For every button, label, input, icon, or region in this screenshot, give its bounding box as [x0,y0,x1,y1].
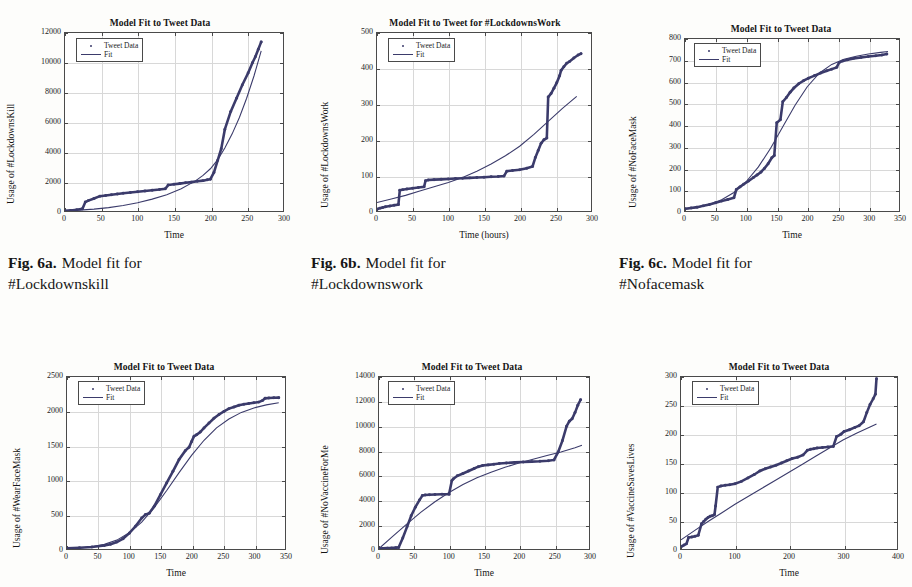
tweet-data-point [843,430,846,433]
fit-line-icon [696,397,718,398]
x-axis-title: Time [680,568,898,578]
tweet-data-point [789,91,792,94]
tweet-data-point [212,171,215,174]
tweet-data-point [441,493,444,496]
tweet-data-point [417,186,420,189]
fit-curve [65,51,261,211]
tweet-data-point [848,428,851,431]
tweet-data-point [694,535,697,538]
scatter-dot-icon [698,50,720,52]
tweet-data-point [406,525,409,528]
tweet-data-point [763,167,766,170]
plot-area: Tweet Data Fit 0200040006000800010000120… [64,32,284,212]
tweet-data-point [505,170,508,173]
y-tick-label: 500 [669,99,681,107]
tweet-data-point [110,193,113,196]
x-axis-title: Time [684,230,900,240]
legend-label-data: Tweet Data [104,384,140,393]
tweet-data-trail [685,54,887,209]
fit-curve [685,51,888,209]
chart-title: Model Fit to Tweet for #LockdownsWork [332,18,618,28]
tweet-data-point [190,440,193,443]
chart-legend: Tweet Data Fit [694,43,761,67]
tweet-data-point [195,433,198,436]
tweet-data-point [724,484,727,487]
tweet-data-point [571,417,574,420]
tweet-data-point [802,79,805,82]
x-tick-label: 150 [478,553,490,561]
tweet-data-point [802,454,805,457]
x-tick-label: 200 [205,215,217,223]
tweet-data-point [398,189,401,192]
tweet-data-point [555,81,558,84]
y-tick-label: 0 [369,208,373,216]
tweet-data-point [252,401,255,404]
tweet-data-point [728,483,731,486]
tweet-data-point [144,513,147,516]
tweet-data-point [685,542,688,545]
tweet-data-point [577,54,580,57]
tweet-data-point [277,396,280,399]
tweet-data-point [726,198,729,201]
x-tick-label: 200 [186,553,198,561]
tweet-data-point [212,417,215,420]
tweet-data-point [807,77,810,80]
tweet-data-point [716,486,719,489]
y-tick-label: 600 [669,78,681,86]
figure-cell-6f: Model Fit to Tweet Data Usage of #Vaccin… [608,352,912,587]
tweet-data-point [167,184,170,187]
tweet-data-point [874,54,877,57]
y-tick-label: 4000 [45,148,61,156]
tweet-data-point [272,396,275,399]
tweet-data-point [702,520,705,523]
tweet-data-point [267,396,270,399]
chart-legend: Tweet Data Fit [388,381,455,405]
tweet-data-point [421,494,424,497]
tweet-data-point [397,546,400,549]
tweet-data-point [525,167,528,170]
tweet-data-point [867,55,870,58]
chart-title: Model Fit to Tweet Data [642,24,912,34]
x-axis-title: Time [66,568,286,578]
legend-label-fit: Fit [718,393,728,402]
tweet-data-point [835,66,838,69]
y-tick-label: 12000 [41,28,61,36]
legend-label-fit: Fit [414,393,424,402]
x-tick-label: 300 [584,553,596,561]
caption-text: Model fit for [366,254,446,271]
plot-area: Tweet Data Fit 0200040006000800010000120… [378,376,590,550]
plot-area: Tweet Data Fit 0100200300400500050100150… [376,32,592,212]
tweet-data-point [414,506,417,509]
y-tick-label: 200 [665,430,677,438]
y-tick-label: 4000 [359,496,375,504]
tweet-data-point [875,377,878,380]
plot-area: Tweet Data Fit 0501001502002503000100200… [680,376,898,550]
tweet-data-point [171,470,174,473]
y-tick-label: 300 [669,143,681,151]
caption-text: Model fit for [672,254,752,271]
tweet-data-point [560,69,563,72]
tweet-data-point [381,206,384,209]
y-tick-label: 100 [669,186,681,194]
tweet-data-point [462,472,465,475]
tweet-data-point [418,498,421,501]
tweet-data-point [806,449,809,452]
tweet-data-point [184,181,187,184]
tweet-data-point [394,546,397,549]
tweet-data-point [719,484,722,487]
tweet-data-point [865,411,868,414]
y-tick-label: 100 [361,172,373,180]
chart-wearfacemask: Model Fit to Tweet Data Usage of #WearFa… [6,362,302,584]
caption-lead: Fig. 6b. [311,254,361,271]
plot-area: Tweet Data Fit 0500100015002000250005010… [66,376,286,550]
tweet-data-point [505,462,508,465]
tweet-data-point [812,447,815,450]
tweet-data-point [853,426,856,429]
x-tick-label: 50 [93,553,101,561]
tweet-data-point [158,188,161,191]
y-tick-label: 400 [669,121,681,129]
tweet-data-point [572,56,575,59]
caption-6a: Fig. 6a.Model fit for #Lockdownskill [8,252,223,294]
chart-nofacemask: Model Fit to Tweet Data Usage of #NoFace… [622,24,912,246]
x-axis-title: Time (hours) [376,230,592,240]
